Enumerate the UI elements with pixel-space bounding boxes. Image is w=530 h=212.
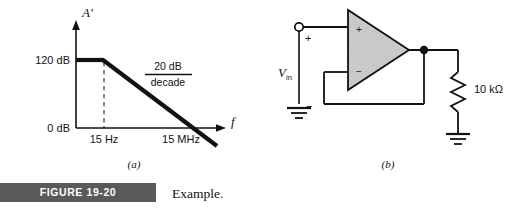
source-plus-sign: + [305,32,311,44]
figure-caption-text: Example. [172,184,223,203]
resistor-symbol [451,72,465,112]
circuit-svg: + V in − + − [268,0,530,178]
y-axis [72,20,80,128]
input-terminal-node [295,23,303,31]
slope-numerator: 20 dB [154,60,181,72]
opamp-triangle [348,10,409,90]
y-tick-label-0db: 0 dB [47,122,70,134]
resistor-value-label: 10 kΩ [474,83,503,95]
bode-plot-svg: A' f 120 dB 0 dB 15 Hz 15 MHz 20 dB [0,0,268,178]
slope-denominator: decade [151,76,186,88]
opamp-inverting-input-sign: − [356,66,362,77]
x-tick-label-15hz: 15 Hz [90,133,119,145]
source-minus-sign: − [306,100,312,112]
panel-a-bode-plot: A' f 120 dB 0 dB 15 Hz 15 MHz 20 dB [0,0,268,178]
input-voltage-label: V in [278,65,292,82]
ground-symbol-output [446,134,470,144]
figure-number-label: FIGURE 19-20 [0,183,156,202]
input-voltage-label-subscript: in [286,73,292,82]
panel-b-circuit-diagram: + V in − + − [268,0,530,178]
x-tick-label-15mhz: 15 MHz [162,133,200,145]
x-axis-label: f [231,114,237,129]
opamp-noninverting-input-sign: + [356,24,362,35]
y-tick-label-120db: 120 dB [35,54,70,66]
y-axis-label: A' [81,5,93,20]
figure-container: A' f 120 dB 0 dB 15 Hz 15 MHz 20 dB [0,0,530,212]
panel-b-letter: (b) [382,158,395,171]
panel-a-letter: (a) [128,158,141,171]
slope-annotation: 20 dB decade [145,60,192,88]
figure-caption: FIGURE 19-20 Example. [0,183,530,205]
x-axis [76,124,226,132]
